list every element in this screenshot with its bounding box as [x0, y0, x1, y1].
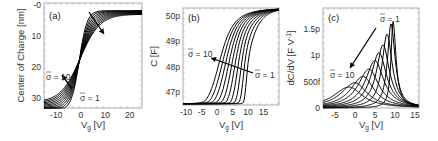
- panel-c: -50510150500f1p1.5p(c)σ = 1σ = 10dC/dV […: [285, 8, 420, 132]
- x-tick: 10: [390, 110, 400, 120]
- x-tick: 15: [259, 107, 269, 117]
- x-tick: 0: [215, 107, 220, 117]
- x-tick: 20: [125, 110, 135, 120]
- curve: [323, 21, 418, 108]
- annotation-sigma-1: σ = 1: [255, 70, 275, 80]
- arrow: [350, 28, 376, 68]
- y-tick: 1p: [311, 50, 321, 60]
- y-tick: 20: [32, 62, 42, 72]
- y-tick: 500f: [303, 77, 320, 87]
- annotation-sigma-1: σ = 1: [80, 93, 100, 103]
- panel-label: (a): [49, 10, 61, 21]
- x-tick: 10: [243, 107, 253, 117]
- panel-b: -10-505101547p48p49p50p(b)σ = 10σ = 1C […: [148, 8, 279, 132]
- y-axis-label: dC/dV [F V-1]: [285, 31, 296, 86]
- y-tick: 10: [32, 31, 42, 41]
- y-tick: 1.5p: [303, 24, 320, 34]
- curve: [44, 13, 142, 106]
- x-tick: 5: [230, 107, 235, 117]
- annotation-sigma-1: σ = 1: [380, 14, 400, 24]
- y-axis-label: C [F]: [148, 46, 159, 67]
- x-tick: -10: [180, 107, 193, 117]
- x-tick: 0: [353, 110, 358, 120]
- x-tick: -5: [331, 110, 339, 120]
- x-axis-label: Vg [V]: [359, 119, 383, 132]
- x-axis-label: Vg [V]: [219, 119, 243, 132]
- x-tick: -5: [198, 107, 206, 117]
- y-tick: 30: [32, 93, 42, 103]
- x-axis-label: Vg [V]: [81, 119, 105, 132]
- annotation-sigma-10: σ = 10: [188, 49, 213, 59]
- y-tick: 0: [315, 103, 320, 113]
- figure: -1001020-0102030(a)σ = 10σ = 1Center of …: [0, 0, 438, 141]
- y-tick: -0: [33, 0, 41, 10]
- y-tick: 49p: [166, 36, 180, 46]
- y-tick: 48p: [166, 62, 180, 72]
- panel-a: -1001020-0102030(a)σ = 10σ = 1Center of …: [15, 0, 142, 132]
- panel-label: (c): [328, 12, 339, 23]
- panel-label: (b): [188, 12, 200, 23]
- curve: [323, 83, 418, 107]
- x-tick: 15: [410, 110, 420, 120]
- curve: [44, 13, 142, 104]
- annotation-sigma-10: σ = 10: [330, 70, 355, 80]
- y-axis-label: Center of Charge [nm]: [15, 9, 26, 103]
- annotation-sigma-10: σ = 10: [46, 72, 71, 82]
- y-tick: 47p: [166, 87, 180, 97]
- x-tick: -10: [50, 110, 63, 120]
- y-tick: 50p: [166, 11, 180, 21]
